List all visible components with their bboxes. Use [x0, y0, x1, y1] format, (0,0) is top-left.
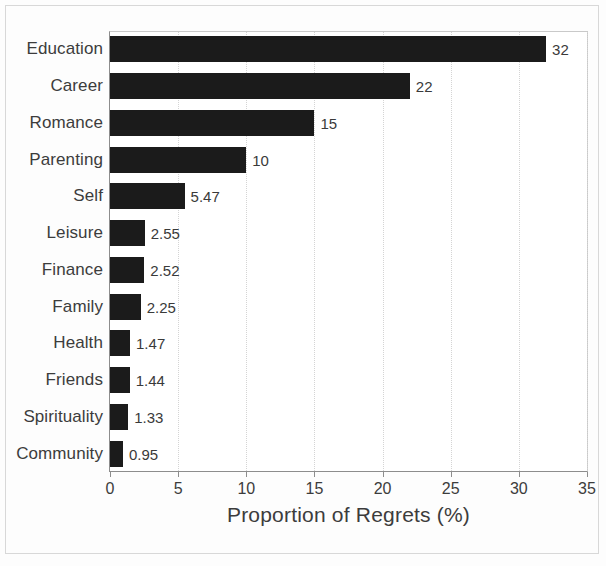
category-label: Community	[0, 444, 103, 464]
bar-row: Education32	[0, 31, 606, 68]
x-tick-label: 25	[442, 480, 460, 498]
bar	[110, 404, 128, 430]
x-tick-mark	[110, 472, 111, 477]
bar-row: Finance2.52	[0, 252, 606, 289]
bar-row: Friends1.44	[0, 362, 606, 399]
x-tick-label: 35	[578, 480, 596, 498]
bar	[110, 257, 144, 283]
bar	[110, 147, 246, 173]
bar	[110, 220, 145, 246]
category-label: Parenting	[0, 150, 103, 170]
bar-value-label: 1.33	[134, 408, 163, 425]
bar-row: Romance15	[0, 105, 606, 142]
bar-value-label: 2.25	[147, 298, 176, 315]
bar-rows: Education32Career22Romance15Parenting10S…	[0, 31, 606, 472]
bar	[110, 294, 141, 320]
bar-value-label: 5.47	[191, 188, 220, 205]
x-tick-label: 20	[374, 480, 392, 498]
bar-row: Parenting10	[0, 141, 606, 178]
x-axis-title: Proportion of Regrets (%)	[109, 503, 588, 527]
bar	[110, 36, 546, 62]
bar-value-label: 22	[416, 78, 433, 95]
x-tick-mark	[587, 472, 588, 477]
bar-value-label: 2.55	[151, 225, 180, 242]
bar	[110, 110, 314, 136]
category-label: Spirituality	[0, 407, 103, 427]
category-label: Education	[0, 39, 103, 59]
bar-chart-figure: Education32Career22Romance15Parenting10S…	[0, 0, 606, 566]
category-label: Leisure	[0, 223, 103, 243]
bar-value-label: 1.47	[136, 335, 165, 352]
x-tick-label: 0	[106, 480, 115, 498]
x-tick-mark	[314, 472, 315, 477]
x-tick-mark	[383, 472, 384, 477]
x-axis: 05101520253035	[0, 472, 606, 500]
bar	[110, 441, 123, 467]
bar-row: Spirituality1.33	[0, 399, 606, 436]
bar-row: Community0.95	[0, 435, 606, 472]
bar-value-label: 2.52	[150, 261, 179, 278]
x-tick-label: 5	[174, 480, 183, 498]
bar-value-label: 1.44	[136, 372, 165, 389]
category-label: Romance	[0, 113, 103, 133]
x-tick-mark	[519, 472, 520, 477]
category-label: Friends	[0, 370, 103, 390]
bar-row: Family2.25	[0, 288, 606, 325]
x-tick-label: 10	[237, 480, 255, 498]
x-tick-label: 15	[306, 480, 324, 498]
bar	[110, 73, 410, 99]
category-label: Self	[0, 186, 103, 206]
x-tick-mark	[246, 472, 247, 477]
bar-value-label: 0.95	[129, 445, 158, 462]
category-label: Health	[0, 333, 103, 353]
x-tick-mark	[178, 472, 179, 477]
bar-row: Self5.47	[0, 178, 606, 215]
x-tick-mark	[451, 472, 452, 477]
bar	[110, 367, 130, 393]
category-label: Career	[0, 76, 103, 96]
category-label: Family	[0, 297, 103, 317]
bar	[110, 330, 130, 356]
bar-value-label: 32	[552, 41, 569, 58]
bar-value-label: 15	[320, 114, 337, 131]
x-tick-label: 30	[510, 480, 528, 498]
bar	[110, 183, 185, 209]
bar-row: Career22	[0, 68, 606, 105]
bar-row: Leisure2.55	[0, 215, 606, 252]
category-label: Finance	[0, 260, 103, 280]
bar-row: Health1.47	[0, 325, 606, 362]
bar-value-label: 10	[252, 151, 269, 168]
